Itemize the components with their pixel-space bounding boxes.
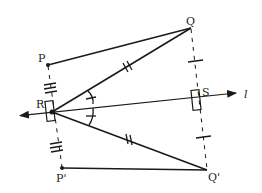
right-angle-marker-s [191, 90, 201, 111]
label-r: R [36, 98, 45, 111]
label-s: S [202, 86, 210, 99]
label-line-l: l [244, 88, 248, 101]
segment-p-q [48, 28, 191, 65]
triple-tick-upper [44, 83, 57, 93]
single-tick-upper [188, 60, 203, 62]
angle-tick-upper [86, 97, 96, 99]
triple-tick-lower [50, 142, 63, 152]
point-p-prime [60, 166, 64, 170]
label-q-prime: Q' [208, 171, 220, 184]
segment-q-q-prime [191, 29, 207, 169]
label-p: P [38, 52, 46, 65]
reflection-diagram: P Q R S P' Q' l [0, 0, 262, 193]
point-p [46, 63, 50, 67]
segment-r-q-prime [52, 112, 207, 170]
label-q: Q [186, 15, 195, 28]
segment-p-prime-q-prime [62, 168, 207, 170]
label-p-prime: P' [56, 172, 66, 185]
double-tick-rq-prime [126, 134, 132, 145]
